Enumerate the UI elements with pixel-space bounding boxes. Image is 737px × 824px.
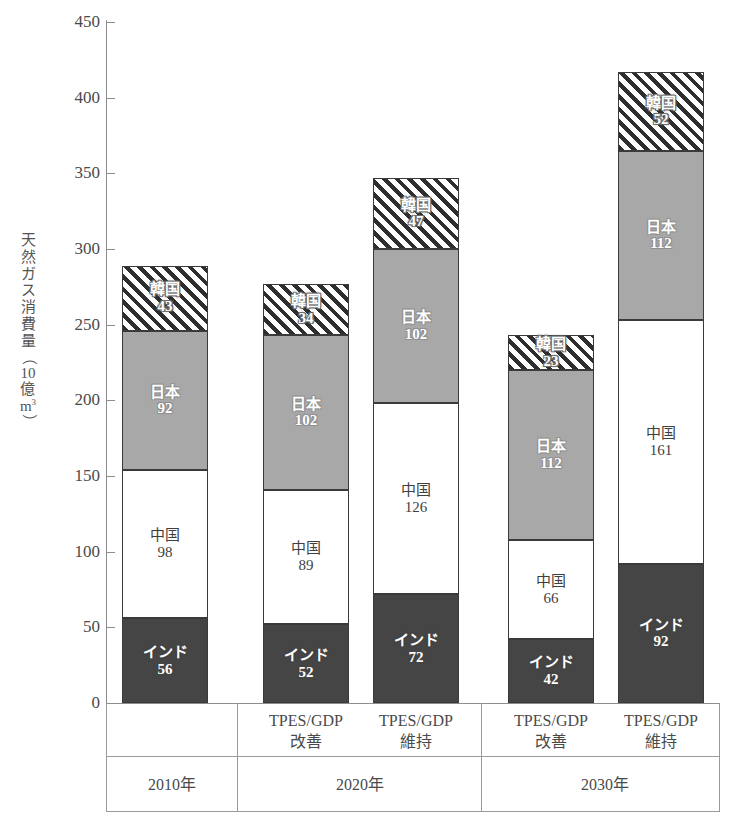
x-axis-year-group-label: 2010年	[112, 771, 232, 795]
scenario-label-line2: 維持	[601, 732, 721, 753]
y-axis-tick-label: 150	[48, 466, 100, 486]
bar-segment-korea: 韓国23	[508, 335, 594, 370]
scenario-label-line1: TPES/GDP	[601, 711, 721, 732]
scenario-label-line1: TPES/GDP	[491, 711, 611, 732]
natural-gas-consumption-stacked-bar-chart: 天 然 ガ ス 消 費 量 （ 10 億 m3 ） 05010015020025…	[0, 0, 737, 824]
segment-series-name: インド	[394, 632, 439, 649]
segment-value-label: 72	[409, 649, 424, 666]
y-axis-title-char: 天	[21, 232, 36, 249]
segment-series-name: 日本	[646, 219, 676, 236]
segment-value-label: 52	[299, 664, 314, 681]
x-axis-group-divider	[481, 703, 482, 812]
segment-series-name: インド	[143, 644, 188, 661]
segment-series-name: 韓国	[536, 336, 566, 353]
bar-segment-korea: 韓国34	[263, 284, 349, 335]
x-axis-year-group-label: 2030年	[545, 771, 665, 795]
bar-segment-china: 中国89	[263, 490, 349, 625]
bar-segment-china: 中国66	[508, 540, 594, 640]
y-axis-tick-label: 400	[48, 88, 100, 108]
y-axis-tick-label: 200	[48, 390, 100, 410]
segment-value-label: 161	[650, 442, 673, 459]
x-axis-group-divider	[237, 703, 238, 812]
y-axis-title-char: 消	[21, 299, 36, 316]
x-axis-scenario-label: TPES/GDP維持	[601, 711, 721, 753]
y-axis-unit-number: 10	[20, 365, 35, 382]
x-axis-scenario-label: TPES/GDP維持	[356, 711, 476, 753]
bar-segment-china: 中国161	[618, 320, 704, 564]
bar-segment-china: 中国98	[122, 470, 208, 618]
segment-series-name: インド	[284, 647, 329, 664]
x-axis-bottom-border	[106, 811, 719, 812]
y-axis-unit-cubic-meter: m3	[20, 398, 36, 415]
segment-value-label: 102	[295, 412, 318, 429]
y-axis-tick-label: 450	[48, 12, 100, 32]
segment-value-label: 52	[654, 111, 669, 128]
segment-series-name: 韓国	[150, 281, 180, 298]
segment-series-name: 中国	[401, 482, 431, 499]
y-axis-tick-label: 250	[48, 315, 100, 335]
x-axis-year-group-label: 2020年	[300, 771, 420, 795]
y-axis-unit-paren-open: （	[21, 350, 36, 365]
y-axis-title-char: ガ	[21, 266, 36, 283]
bar-segment-japan: 日本102	[373, 249, 459, 403]
segment-value-label: 23	[544, 353, 559, 370]
bar-segment-india: インド42	[508, 639, 594, 703]
bar-bar-2030-iji: インド92中国161日本112韓国52	[618, 22, 704, 703]
segment-series-name: 日本	[536, 438, 566, 455]
scenario-label-line2: 改善	[246, 732, 366, 753]
segment-value-label: 34	[299, 310, 314, 327]
segment-value-label: 89	[299, 557, 314, 574]
segment-value-label: 126	[405, 499, 428, 516]
segment-value-label: 92	[158, 400, 173, 417]
segment-value-label: 92	[654, 633, 669, 650]
x-axis-area: TPES/GDP改善TPES/GDP維持TPES/GDP改善TPES/GDP維持…	[0, 703, 737, 824]
segment-value-label: 112	[650, 235, 672, 252]
y-axis-tick-label: 300	[48, 239, 100, 259]
y-axis-title-char: 然	[21, 249, 36, 266]
segment-value-label: 42	[544, 671, 559, 688]
bar-bar-2010: インド56中国98日本92韓国43	[122, 22, 208, 703]
y-axis-unit: 10 億 m3	[20, 365, 36, 415]
segment-value-label: 47	[409, 213, 424, 230]
scenario-label-line2: 維持	[356, 732, 476, 753]
segment-series-name: 中国	[291, 540, 321, 557]
bar-segment-korea: 韓国52	[618, 72, 704, 151]
bar-bar-2020-iji: インド72中国126日本102韓国47	[373, 22, 459, 703]
segment-value-label: 66	[544, 590, 559, 607]
scenario-label-line2: 改善	[491, 732, 611, 753]
bar-bar-2020-kaizen: インド52中国89日本102韓国34	[263, 22, 349, 703]
bar-segment-china: 中国126	[373, 403, 459, 594]
y-axis-tick-label: 350	[48, 163, 100, 183]
segment-value-label: 102	[405, 326, 428, 343]
plot-area: インド56中国98日本92韓国43インド52中国89日本102韓国34インド72…	[107, 22, 719, 703]
y-axis-unit-paren-close: ）	[21, 414, 36, 429]
segment-value-label: 112	[540, 455, 562, 472]
bar-segment-japan: 日本92	[122, 331, 208, 470]
segment-series-name: 韓国	[646, 95, 676, 112]
segment-series-name: 中国	[646, 425, 676, 442]
segment-series-name: 日本	[291, 396, 321, 413]
x-axis-group-divider	[106, 703, 107, 812]
bar-segment-japan: 日本112	[618, 151, 704, 320]
segment-series-name: 中国	[150, 527, 180, 544]
bar-segment-japan: 日本102	[263, 335, 349, 489]
segment-series-name: 中国	[536, 573, 566, 590]
y-axis-tick-label: 50	[48, 617, 100, 637]
segment-value-label: 43	[158, 298, 173, 315]
bar-bar-2030-kaizen: インド42中国66日本112韓国23	[508, 22, 594, 703]
x-axis-scenario-label: TPES/GDP改善	[246, 711, 366, 753]
y-axis-title: 天 然 ガ ス 消 費 量 （ 10 億 m3 ）	[8, 232, 48, 429]
segment-value-label: 98	[158, 544, 173, 561]
bar-segment-india: インド56	[122, 618, 208, 703]
scenario-label-line1: TPES/GDP	[246, 711, 366, 732]
x-axis-scenario-label: TPES/GDP改善	[491, 711, 611, 753]
y-axis-tick-label: 100	[48, 542, 100, 562]
bar-segment-india: インド52	[263, 624, 349, 703]
bar-segment-japan: 日本112	[508, 370, 594, 539]
y-axis-unit-oku: 億	[20, 381, 35, 398]
scenario-label-line1: TPES/GDP	[356, 711, 476, 732]
bar-segment-korea: 韓国47	[373, 178, 459, 249]
bar-segment-india: インド72	[373, 594, 459, 703]
segment-series-name: インド	[639, 617, 684, 634]
segment-series-name: インド	[529, 654, 574, 671]
